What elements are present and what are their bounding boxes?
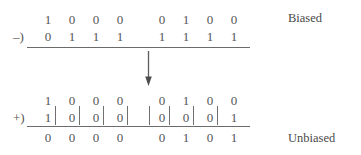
bit-separator	[149, 106, 150, 125]
digit-cell: 1	[65, 29, 79, 45]
digit-cell: 0	[155, 93, 169, 109]
bit-separator	[127, 106, 128, 125]
digit-cell: 0	[203, 130, 217, 146]
digit-cell: 1	[113, 29, 127, 45]
add-operator: +)	[13, 110, 25, 126]
digit-cell: 0	[41, 29, 55, 45]
bit-separator	[55, 106, 56, 125]
digit-cell: 1	[179, 29, 193, 45]
digit-cell: 0	[179, 110, 193, 126]
digit-cell: 1	[179, 130, 193, 146]
digit-cell: 0	[203, 93, 217, 109]
digit-cell: 1	[203, 29, 217, 45]
bit-separator	[169, 106, 170, 125]
digit-cell: 0	[155, 110, 169, 126]
digit-cell: 0	[89, 93, 103, 109]
digit-cell: 0	[113, 130, 127, 146]
digit-cell: 0	[203, 110, 217, 126]
digit-cell: 0	[227, 93, 241, 109]
subtract-operator: –)	[13, 29, 24, 45]
digit-cell: 0	[41, 130, 55, 146]
bit-separator	[193, 106, 194, 125]
down-arrow-icon	[143, 51, 155, 87]
digit-cell: 0	[65, 130, 79, 146]
digit-cell: 1	[41, 93, 55, 109]
digit-cell: 0	[89, 12, 103, 28]
digit-cell: 0	[113, 12, 127, 28]
digit-cell: 0	[65, 12, 79, 28]
digit-cell: 0	[65, 110, 79, 126]
digit-cell: 0	[227, 12, 241, 28]
digit-cell: 1	[179, 93, 193, 109]
digit-cell: 1	[155, 29, 169, 45]
addition-rule	[27, 126, 250, 127]
digit-cell: 1	[41, 110, 55, 126]
digit-cell: 0	[203, 12, 217, 28]
digit-cell: 0	[65, 93, 79, 109]
digit-cell: 0	[89, 110, 103, 126]
subtraction-rule	[27, 47, 250, 48]
digit-cell: 0	[155, 12, 169, 28]
digit-cell: 1	[227, 110, 241, 126]
digit-cell: 0	[89, 130, 103, 146]
label-biased: Biased	[288, 10, 322, 26]
bit-separator	[103, 106, 104, 125]
binary-arithmetic-figure: 1 0 0 0 0 1 0 0 Biased –) 0 1 1 1 1 1 1 …	[0, 0, 361, 155]
digit-cell: 0	[113, 110, 127, 126]
bit-separator	[217, 106, 218, 125]
digit-cell: 0	[113, 93, 127, 109]
digit-cell: 1	[227, 29, 241, 45]
label-unbiased: Unbiased	[288, 130, 335, 146]
digit-cell: 1	[227, 130, 241, 146]
digit-cell: 0	[155, 130, 169, 146]
bit-separator	[79, 106, 80, 125]
digit-cell: 1	[179, 12, 193, 28]
digit-cell: 1	[41, 12, 55, 28]
digit-cell: 1	[89, 29, 103, 45]
